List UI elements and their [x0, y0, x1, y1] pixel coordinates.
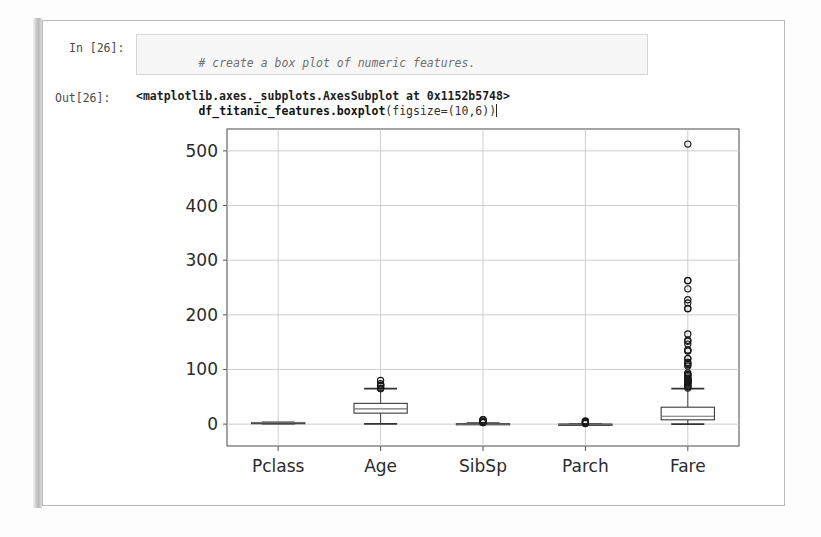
y-tick-label: 500	[186, 141, 218, 161]
boxplot-svg: 0100200300400500PclassAgeSibSpParchFare	[139, 119, 759, 494]
y-tick-label: 300	[186, 250, 218, 270]
notebook-cell-frame: In [26]: # create a box plot of numeric …	[42, 20, 785, 506]
y-tick-label: 0	[207, 414, 218, 434]
scan-edge-shadow	[33, 18, 42, 508]
input-prompt-label: In [26]:	[69, 41, 124, 55]
code-input-area[interactable]: # create a box plot of numeric features.…	[136, 34, 648, 75]
y-tick-label: 100	[186, 359, 218, 379]
screenshot-page: In [26]: # create a box plot of numeric …	[0, 0, 821, 537]
x-tick-label: Pclass	[252, 456, 305, 476]
code-statement-name: df_titanic_features.boxplot	[198, 104, 385, 118]
y-tick-label: 200	[186, 305, 218, 325]
boxplot-group	[252, 422, 305, 423]
boxplot-figure: 0100200300400500PclassAgeSibSpParchFare	[139, 119, 759, 494]
x-tick-label: Fare	[670, 456, 706, 476]
code-comment-line: # create a box plot of numeric features.	[143, 39, 641, 87]
code-comment-text: # create a box plot of numeric features.	[198, 56, 475, 70]
x-tick-label: Parch	[562, 456, 609, 476]
output-repr-text: <matplotlib.axes._subplots.AxesSubplot a…	[136, 89, 510, 103]
box-iqr	[661, 407, 714, 420]
code-statement-args: (figsize=(10,6))	[385, 104, 496, 118]
output-prompt-label: Out[26]:	[55, 91, 110, 105]
text-caret	[496, 104, 497, 117]
x-tick-label: Age	[364, 456, 397, 476]
y-tick-label: 400	[186, 196, 218, 216]
x-tick-label: SibSp	[459, 456, 507, 476]
